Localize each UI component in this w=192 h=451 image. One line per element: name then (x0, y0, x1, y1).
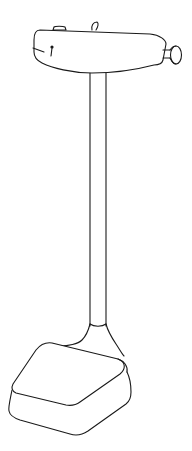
scale-head (33, 22, 166, 73)
scale-drawing (0, 0, 192, 451)
head-tab (53, 26, 66, 30)
beam-marker-dot (50, 45, 53, 48)
scale-illustration: physician beam scale line drawing (0, 0, 192, 451)
scale-platform (9, 343, 131, 435)
scale-column (90, 72, 106, 326)
adjustment-knob (163, 46, 182, 64)
head-hook (92, 22, 98, 30)
